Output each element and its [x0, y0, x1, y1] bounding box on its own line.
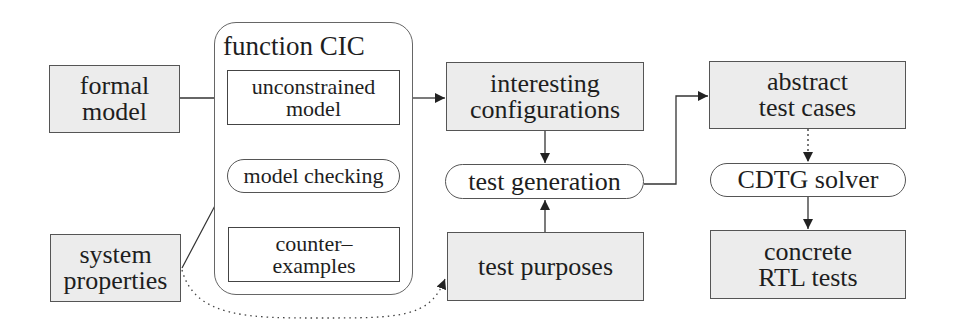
node-abstract-test-cases: abstract test cases: [709, 61, 906, 129]
flow-diagram: function CIC formal model system propert…: [0, 0, 957, 334]
node-counter-examples-line1: counter–: [276, 233, 353, 255]
node-model-checking-label: model checking: [244, 165, 384, 187]
node-cdtg-solver-label: CDTG solver: [738, 167, 879, 193]
node-system-properties-line2: properties: [64, 268, 168, 294]
node-interesting-configurations-line2: configurations: [470, 97, 620, 123]
node-concrete-rtl-tests-line2: RTL tests: [758, 265, 857, 291]
node-unconstrained-model-line1: unconstrained: [252, 76, 375, 98]
node-model-checking: model checking: [227, 159, 400, 193]
node-formal-model-line2: model: [82, 99, 147, 125]
node-formal-model-line1: formal: [80, 73, 149, 99]
node-counter-examples: counter– examples: [228, 227, 400, 282]
node-interesting-configurations-line1: interesting: [490, 71, 600, 97]
node-test-purposes-label: test purposes: [478, 254, 613, 280]
node-system-properties: system properties: [50, 234, 181, 302]
node-test-generation-label: test generation: [468, 169, 620, 195]
node-abstract-test-cases-line1: abstract: [767, 69, 848, 95]
node-test-purposes: test purposes: [447, 232, 644, 301]
node-cdtg-solver: CDTG solver: [710, 163, 906, 197]
node-formal-model: formal model: [49, 65, 180, 133]
function-cic-title: function CIC: [223, 33, 365, 60]
node-system-properties-line1: system: [79, 242, 151, 268]
node-concrete-rtl-tests-line1: concrete: [764, 239, 852, 265]
node-unconstrained-model-line2: model: [286, 98, 341, 120]
node-test-generation: test generation: [445, 164, 644, 199]
node-counter-examples-line2: examples: [272, 255, 355, 277]
node-interesting-configurations: interesting configurations: [446, 62, 644, 131]
edge-generation-to-abstract: [644, 96, 708, 184]
node-abstract-test-cases-line2: test cases: [759, 95, 856, 121]
node-concrete-rtl-tests: concrete RTL tests: [710, 230, 906, 299]
node-unconstrained-model: unconstrained model: [227, 70, 400, 125]
